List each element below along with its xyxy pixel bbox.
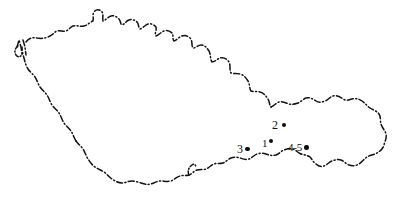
- locality-marker-2: 2: [272, 119, 286, 131]
- national-border-path: [15, 10, 386, 185]
- locality-dot: [304, 145, 309, 150]
- locality-dot: [282, 123, 287, 128]
- locality-label: 1: [262, 138, 267, 149]
- locality-dot: [269, 139, 274, 144]
- country-outline-map: [0, 0, 397, 205]
- locality-dot: [245, 147, 250, 152]
- locality-label: 3: [237, 143, 243, 155]
- locality-label: 4-5: [288, 142, 302, 153]
- locality-marker-1: 1: [262, 138, 273, 149]
- locality-map-figure: 1 2 3 4-5: [0, 0, 397, 205]
- locality-marker-3: 3: [237, 143, 250, 155]
- locality-label: 2: [272, 119, 278, 131]
- locality-marker-4-5: 4-5: [288, 142, 309, 153]
